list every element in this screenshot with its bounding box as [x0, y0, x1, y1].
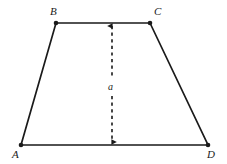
- vertex-dot-c: [148, 21, 153, 26]
- vertex-dot-b: [54, 21, 59, 26]
- vertex-label-a: A: [12, 149, 19, 160]
- vertex-label-c: C: [154, 6, 161, 17]
- vertex-label-d: D: [207, 149, 215, 160]
- height-dimension-label: a: [106, 81, 115, 93]
- vertex-label-b: B: [50, 6, 57, 17]
- vertex-dot-a: [19, 143, 24, 148]
- vertex-dot-d: [206, 143, 211, 148]
- geometry-figure: B C A D a: [0, 0, 227, 164]
